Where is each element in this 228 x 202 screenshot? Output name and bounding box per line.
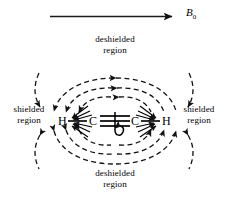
deshielded-top-line2: region [69, 45, 161, 56]
b0-subscript: 0 [193, 13, 197, 21]
field-line-mid-lower-left [66, 130, 113, 154]
shielded-left-line2: region [2, 115, 56, 126]
b0-label: B0 [186, 7, 196, 23]
field-line-far-right-lower [188, 135, 193, 169]
shielded-right-line2: region [172, 115, 226, 126]
deshielded-region-bottom-label: deshielded region [69, 168, 161, 190]
atom-label-carbon-right: C [131, 115, 139, 127]
atom-label-hydrogen-left: H [58, 115, 67, 127]
shielded-region-right-label: shielded region [172, 104, 226, 126]
deshielded-bottom-line2: region [69, 179, 161, 190]
field-line-mid-lower-right [117, 130, 164, 154]
field-line-mid-upper-left [66, 88, 113, 112]
shielded-right-line1: shielded [172, 104, 226, 115]
atom-label-hydrogen-right: H [162, 115, 171, 127]
shielded-left-line1: shielded [2, 104, 56, 115]
deshielded-region-top-label: deshielded region [69, 34, 161, 56]
field-line-far-right-upper [188, 73, 193, 107]
atom-label-carbon-left: C [89, 115, 97, 127]
b0-letter: B [186, 6, 193, 18]
field-line-inner-upper-right [119, 97, 151, 112]
deshielded-bottom-line1: deshielded [69, 168, 161, 179]
diagram-canvas: B0 deshielded region deshielded region s… [0, 0, 228, 202]
field-line-mid-upper-right [117, 88, 164, 112]
shielded-region-left-label: shielded region [2, 104, 56, 126]
field-line-outer-lower-left [54, 131, 114, 164]
field-line-far-left-upper [35, 73, 40, 107]
field-line-outer-upper-left [54, 78, 114, 111]
deshielded-top-line1: deshielded [69, 34, 161, 45]
field-line-outer-upper-right [116, 78, 176, 111]
field-line-far-left-lower [35, 135, 40, 169]
field-line-inner-lower-left [79, 130, 111, 145]
field-line-outer-lower-right [116, 131, 176, 164]
